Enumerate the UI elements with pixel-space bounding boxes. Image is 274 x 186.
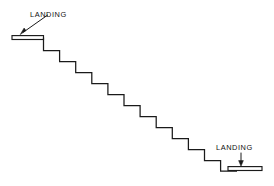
drawing-background — [0, 0, 274, 186]
stair-section-drawing: LANDING LANDING — [0, 0, 274, 186]
top-landing-slab — [12, 36, 44, 40]
stair-diagram-canvas: LANDING LANDING — [0, 0, 274, 186]
top-landing-label: LANDING — [30, 10, 67, 19]
bottom-landing-slab-outline — [228, 167, 262, 171]
bottom-landing-label: LANDING — [216, 143, 253, 152]
top-landing-slab-outline — [12, 36, 44, 40]
bottom-landing-slab — [228, 167, 262, 171]
